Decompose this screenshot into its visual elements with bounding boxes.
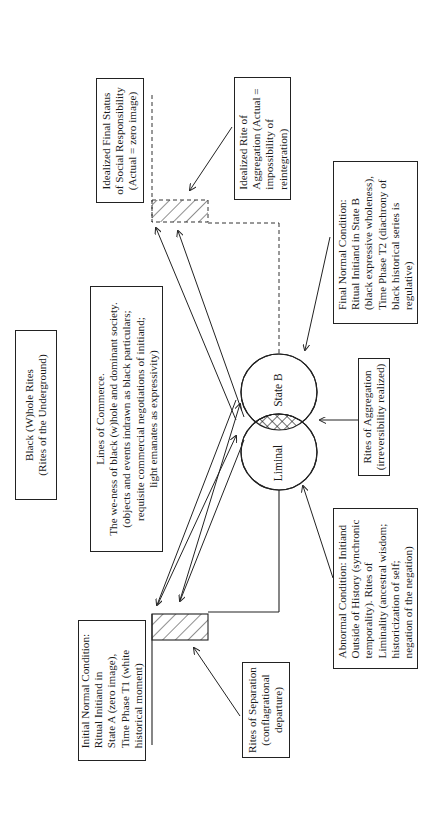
text-line: Final Normal Condition: bbox=[336, 176, 349, 310]
text-line: State A (zero image), bbox=[105, 633, 118, 747]
abnormal-condition-box: Abnormal Condition: Initiand Outside of … bbox=[333, 508, 418, 669]
rites-of-separation-box: Rites of Separation (conflagrational dep… bbox=[242, 662, 290, 758]
text-line: Rites of Aggregation bbox=[361, 364, 374, 471]
text-line: (objects and events indrawn as black par… bbox=[120, 302, 133, 536]
text-line: requisite commercial negotiations of ini… bbox=[133, 302, 146, 536]
title-text: Black (W)hole Rites (Rites of the Underg… bbox=[23, 354, 49, 475]
final-condition-text: Final Normal Condition: Ritual Initiand … bbox=[336, 176, 415, 310]
commerce-lines bbox=[156, 228, 244, 605]
text-line: Liminality (ancestral wisdom; bbox=[376, 519, 389, 658]
abnormal-condition-text: Abnormal Condition: Initiand Outside of … bbox=[336, 519, 415, 658]
text-line: historicization of self; bbox=[389, 519, 402, 658]
text-line: (conflagrational bbox=[259, 667, 272, 753]
subtitle-line: (Rites of the Underground) bbox=[36, 354, 49, 475]
text-line: Abnormal Condition: Initiand bbox=[336, 519, 349, 658]
text-line: departure) bbox=[273, 667, 286, 753]
idealized-rite-aggregation-box: Idealized Rite of Aggregation (Actual = … bbox=[234, 77, 291, 200]
text-line: (Actual = zero image) bbox=[127, 87, 140, 195]
final-condition-box: Final Normal Condition: Ritual Initiand … bbox=[333, 161, 418, 324]
text-line: Idealized Rite of bbox=[236, 88, 249, 189]
text-line: Time Phase T1 (white bbox=[119, 633, 132, 747]
rites-of-aggregation-box: Rites of Aggregation (irreversibility re… bbox=[358, 358, 390, 476]
title-box: Black (W)hole Rites (Rites of the Underg… bbox=[15, 330, 57, 500]
title-line: Black (W)hole Rites bbox=[23, 354, 36, 475]
text-line: regulative) bbox=[402, 176, 415, 310]
text-line: Aggregation (Actual = bbox=[249, 88, 262, 189]
text-line: Time Phase T2 (diachrony of bbox=[376, 176, 389, 310]
text-line: reintegration) bbox=[276, 88, 289, 189]
text-line: impossibility of bbox=[263, 88, 276, 189]
text-line: (irreversibility realized) bbox=[374, 364, 387, 471]
text-line: Ritual Initiand in bbox=[92, 633, 105, 747]
text-line: black historical series is bbox=[389, 176, 402, 310]
initial-condition-box: Initial Normal Condition: Ritual Initian… bbox=[78, 620, 146, 761]
text-line: Outside of History (synchronic bbox=[349, 519, 362, 658]
text-line: Ritual Initiand in State B bbox=[349, 176, 362, 310]
text-line: historical moment) bbox=[132, 633, 145, 747]
idealized-rite-aggregation-text: Idealized Rite of Aggregation (Actual = … bbox=[236, 88, 289, 189]
text-line: Initial Normal Condition: bbox=[79, 633, 92, 747]
text-line: temporality). Rites of bbox=[362, 519, 375, 658]
idealized-final-status-text: Idealized Final Status of Social Respons… bbox=[100, 87, 140, 195]
liminal-label: Liminal bbox=[272, 438, 286, 488]
text-line: light emanates as expressivity) bbox=[146, 302, 159, 536]
text-line: negation of the negation) bbox=[402, 519, 415, 658]
text-line: Idealized Final Status bbox=[100, 87, 113, 195]
text-line: Rites of Separation bbox=[246, 667, 259, 753]
lines-of-commerce-text: Lines of Commerce. The we-ness of black … bbox=[93, 302, 159, 536]
lines-of-commerce-box: Lines of Commerce. The we-ness of black … bbox=[90, 286, 163, 552]
initial-condition-text: Initial Normal Condition: Ritual Initian… bbox=[79, 633, 145, 747]
state-b-label: State B bbox=[272, 365, 286, 415]
text-line: (black expressive wholeness), bbox=[362, 176, 375, 310]
rites-of-separation-text: Rites of Separation (conflagrational dep… bbox=[246, 667, 286, 753]
idealized-final-status-box: Idealized Final Status of Social Respons… bbox=[96, 78, 144, 203]
rites-diagram: Black (W)hole Rites (Rites of the Underg… bbox=[0, 0, 438, 836]
text-line: The we-ness of black (w)hole and dominan… bbox=[107, 302, 120, 536]
rites-of-aggregation-text: Rites of Aggregation (irreversibility re… bbox=[361, 364, 387, 471]
text-line: of Social Responsibility bbox=[113, 87, 126, 195]
text-line: Lines of Commerce. bbox=[93, 302, 106, 536]
